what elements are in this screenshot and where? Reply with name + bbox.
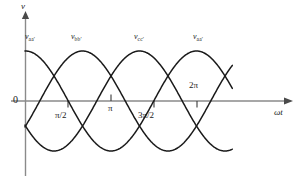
tick-label-3pi-over-2: 3π/2	[138, 111, 154, 120]
tick-label-pi: π	[108, 104, 113, 113]
tick-label-pi-over-2: π/2	[55, 111, 67, 120]
curve-label-vbb-subscript: bb′	[75, 36, 82, 42]
x-axis-label: ωt	[274, 108, 283, 117]
curve-label-vaa2-subscript: aa′	[197, 36, 204, 42]
curve-label-vcc: vcc′	[134, 33, 144, 41]
t-symbol: t	[280, 107, 283, 117]
curve-label-vaa-subscript: aa′	[29, 36, 36, 42]
waveform-plot	[0, 0, 303, 181]
origin-label: 0	[13, 95, 18, 105]
curve-label-vbb: vbb′	[71, 33, 82, 41]
tick-label-2pi: 2π	[189, 81, 198, 90]
three-phase-waveform-figure: v 0 ωt π/2 π 3π/2 2π vaa′ vbb′ vcc′ vaa′	[0, 0, 303, 181]
y-axis-label: v	[21, 2, 25, 11]
curve-label-vcc-subscript: cc′	[138, 36, 145, 42]
curve-label-vaa: vaa′	[25, 33, 35, 41]
curve-label-vaa-second: vaa′	[193, 33, 203, 41]
